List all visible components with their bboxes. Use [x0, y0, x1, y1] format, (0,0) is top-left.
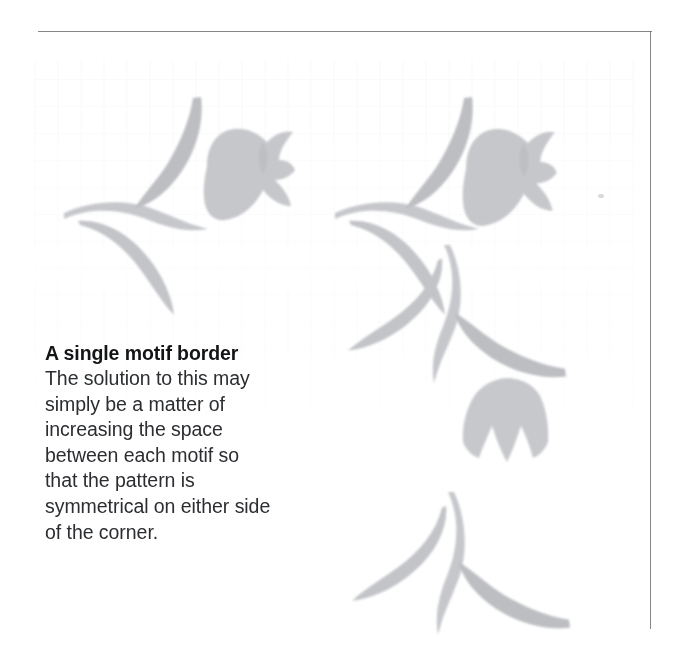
caption-heading: A single motif border [45, 341, 345, 366]
stencil-speck [0, 0, 675, 655]
scanned-page: A single motif border The solution to th… [0, 0, 675, 655]
caption-block: A single motif border The solution to th… [45, 341, 345, 545]
caption-body: The solution to this may simply be a mat… [45, 366, 345, 545]
